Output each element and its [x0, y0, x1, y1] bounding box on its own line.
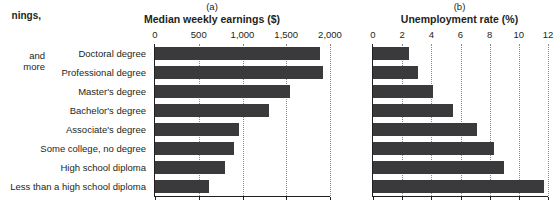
bar-row	[373, 120, 548, 139]
panel-b-title: Unemployment rate (%)	[366, 13, 553, 25]
x-axis-tick-label: 1,500	[274, 29, 298, 40]
chart-panel-a: (a) Median weekly earnings ($) Doctoral …	[62, 0, 362, 202]
category-label: Associate's degree	[66, 120, 146, 139]
bar	[155, 180, 209, 193]
axis-tick-mark	[519, 197, 520, 200]
category-label: Some college, no degree	[40, 139, 146, 158]
bar-row	[373, 82, 548, 101]
bar	[373, 180, 544, 193]
category-label: Professional degree	[62, 63, 147, 82]
axis-tick-mark	[373, 197, 374, 200]
chart-panel-b: (b) Unemployment rate (%) 024681012	[366, 0, 553, 202]
bar-row	[155, 63, 330, 82]
bar	[373, 104, 453, 117]
bar-row	[155, 82, 330, 101]
bar-row	[373, 158, 548, 177]
x-axis-tick-label: 500	[191, 29, 207, 40]
bar	[373, 161, 504, 174]
bar	[155, 123, 239, 136]
axis-tick-mark	[155, 197, 156, 200]
x-axis-tick-label: 2	[400, 29, 405, 40]
bar-row	[155, 120, 330, 139]
x-axis-tick-label: 1,000	[231, 29, 255, 40]
bar	[373, 66, 418, 79]
plot-area-a: 05001,0001,5002,000	[154, 44, 330, 197]
bar-row	[155, 158, 330, 177]
x-axis-tick-label: 8	[487, 29, 492, 40]
bar	[155, 85, 290, 98]
bar	[373, 85, 433, 98]
x-axis-tick-label: 12	[543, 29, 553, 40]
axis-tick-mark	[199, 197, 200, 200]
bar	[155, 142, 234, 155]
category-label: Master's degree	[78, 82, 146, 101]
x-axis-tick-label: 10	[514, 29, 525, 40]
category-label: Doctoral degree	[78, 44, 146, 63]
gridline	[548, 44, 549, 196]
bar	[155, 161, 225, 174]
charts-container: (a) Median weekly earnings ($) Doctoral …	[0, 0, 553, 202]
category-label: Less than a high school diploma	[10, 177, 146, 196]
panel-b-letter: (b)	[366, 1, 553, 12]
bar-row	[155, 44, 330, 63]
bar	[155, 66, 323, 79]
bar-row	[373, 44, 548, 63]
bar-row	[373, 101, 548, 120]
bar-row	[373, 177, 548, 196]
x-axis-tick-label: 4	[429, 29, 434, 40]
axis-tick-mark	[461, 197, 462, 200]
gridline	[330, 44, 331, 196]
x-axis-tick-label: 0	[152, 29, 157, 40]
bar-row	[155, 139, 330, 158]
bar	[155, 104, 269, 117]
bar-row	[373, 63, 548, 82]
panel-a-title: Median weekly earnings ($)	[108, 13, 316, 25]
x-axis-tick-label: 2,000	[318, 29, 342, 40]
axis-tick-mark	[490, 197, 491, 200]
plot-area-b: 024681012	[372, 44, 548, 197]
axis-tick-mark	[330, 197, 331, 200]
x-axis-tick-label: 6	[458, 29, 463, 40]
bar-row	[155, 177, 330, 196]
category-label: Bachelor's degree	[70, 101, 146, 120]
axis-tick-mark	[286, 197, 287, 200]
category-label: High school diploma	[60, 158, 146, 177]
bar	[373, 142, 494, 155]
panel-a-letter: (a)	[108, 1, 316, 12]
axis-tick-mark	[243, 197, 244, 200]
bar	[373, 123, 477, 136]
bar	[373, 47, 409, 60]
axis-tick-mark	[548, 197, 549, 200]
axis-tick-mark	[402, 197, 403, 200]
axis-tick-mark	[431, 197, 432, 200]
bar-row	[373, 139, 548, 158]
bar	[155, 47, 320, 60]
category-axis-labels: Doctoral degreeProfessional degreeMaster…	[62, 44, 150, 198]
bar-row	[155, 101, 330, 120]
x-axis-tick-label: 0	[370, 29, 375, 40]
